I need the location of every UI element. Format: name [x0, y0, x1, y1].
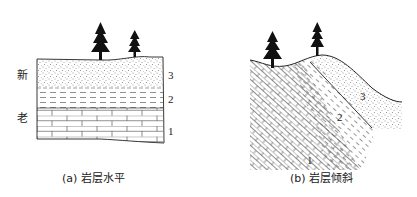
- tree-icon: [91, 22, 110, 60]
- panel-b-tilted-strata: [250, 22, 405, 170]
- caption-a-letter: (a): [62, 172, 77, 185]
- layer-label-2: 2: [168, 94, 174, 105]
- layer-label-1: 1: [307, 155, 313, 166]
- figure-svg: [0, 0, 417, 197]
- layer-3-sandstone: [37, 57, 163, 88]
- age-label-old: 老: [17, 113, 28, 124]
- layer-label-3: 3: [168, 70, 174, 81]
- layer-2-shale: [37, 88, 163, 108]
- tree-icon: [128, 30, 141, 57]
- caption-a-text: 岩层水平: [81, 172, 125, 185]
- tree-icon: [263, 31, 282, 68]
- layer-label-2: 2: [337, 112, 343, 123]
- panel-a-horizontal-strata: [37, 22, 164, 143]
- layer-1-limestone: [37, 108, 163, 143]
- caption-b: (b) 岩层倾斜: [290, 173, 353, 184]
- age-label-young: 新: [17, 70, 28, 81]
- tree-icon: [311, 22, 325, 56]
- caption-a: (a) 岩层水平: [62, 173, 125, 184]
- layer-label-3: 3: [360, 91, 366, 102]
- caption-b-letter: (b): [290, 172, 306, 185]
- caption-b-text: 岩层倾斜: [309, 172, 353, 185]
- stratigraphy-figure: 新 老 3 2 1 (a) 岩层水平 3 2 1 (b) 岩层倾斜: [0, 0, 417, 197]
- layer-label-1: 1: [168, 126, 174, 137]
